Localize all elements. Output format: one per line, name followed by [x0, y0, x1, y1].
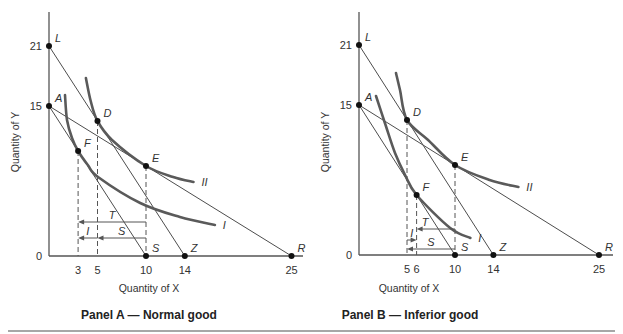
indifference-curve-label: I — [478, 232, 481, 244]
point-d — [404, 117, 410, 123]
point-label: D — [104, 107, 112, 119]
panel-b-origin-label: 0 — [346, 249, 352, 261]
x-tick-label: 14 — [179, 264, 191, 276]
point-label: L — [365, 31, 371, 43]
point-f — [75, 148, 81, 154]
point-label: Z — [190, 242, 199, 254]
point-label: Z — [498, 241, 507, 253]
y-tick-label: 15 — [30, 100, 42, 112]
point-d — [95, 118, 101, 124]
arrowhead-icon — [98, 235, 104, 240]
effect-label: T — [422, 216, 430, 228]
y-tick-label: 21 — [30, 40, 42, 52]
arrowhead-icon — [78, 235, 84, 240]
effect-label: S — [427, 236, 435, 248]
x-tick-label: 5 — [94, 264, 100, 276]
point-r — [596, 252, 602, 258]
point-r — [289, 253, 295, 259]
panel-a-y-axis-title: Quantity of Y — [9, 112, 21, 173]
point-label: L — [55, 32, 61, 44]
x-tick-label: 3 — [75, 264, 81, 276]
point-label: R — [605, 241, 613, 253]
point-label: F — [423, 181, 431, 193]
point-l — [356, 42, 362, 48]
arrowhead-icon — [78, 219, 84, 224]
effect-label: T — [109, 209, 117, 221]
point-s — [143, 253, 149, 259]
indifference-curve-ii — [396, 73, 518, 187]
panel-b-x-axis-title: Quantity of X — [379, 282, 440, 294]
y-tick-label: 15 — [340, 99, 352, 111]
budget-line-lz — [49, 46, 185, 256]
point-label: E — [152, 152, 160, 164]
point-a — [356, 102, 362, 108]
figure: 351014251521IIITSILADEFSZR Quantity of Y… — [0, 0, 623, 334]
point-f — [414, 192, 420, 198]
point-label: F — [84, 137, 92, 149]
x-tick-label: 14 — [487, 263, 499, 275]
panel-b-caption: Panel B — Inferior good — [342, 308, 479, 322]
x-tick-label: 10 — [140, 264, 152, 276]
indifference-curve-label: II — [526, 181, 532, 193]
panel-b-y-axis-title: Quantity of Y — [319, 112, 331, 173]
point-label: D — [413, 106, 421, 118]
x-tick-label: 6 — [414, 263, 420, 275]
x-tick-label: 25 — [285, 264, 297, 276]
indifference-curve-i — [65, 95, 215, 225]
effect-label: I — [410, 227, 413, 239]
panel-b: 561014251521IIITISLADEFSZR Quantity of Y… — [319, 12, 613, 322]
effect-label: S — [118, 225, 126, 237]
point-label: A — [364, 91, 372, 103]
y-tick-label: 21 — [340, 39, 352, 51]
panel-a: 351014251521IIITSILADEFSZR Quantity of Y… — [9, 12, 306, 322]
plot-b: 561014251521IIITISLADEFSZR — [340, 12, 613, 275]
indifference-curve-label: I — [223, 219, 226, 231]
point-z — [182, 253, 188, 259]
point-z — [490, 252, 496, 258]
point-l — [46, 43, 52, 49]
x-tick-label: 25 — [593, 263, 605, 275]
panel-a-origin-label: 0 — [36, 250, 42, 262]
panel-a-caption: Panel A — Normal good — [81, 308, 217, 322]
point-label: E — [461, 151, 469, 163]
point-s — [452, 252, 458, 258]
panel-a-x-axis-title: Quantity of X — [119, 282, 180, 294]
x-tick-label: 5 — [404, 263, 410, 275]
effect-label: I — [86, 225, 89, 237]
point-a — [46, 103, 52, 109]
point-label: S — [461, 241, 469, 253]
point-label: R — [298, 242, 306, 254]
plot-a: 351014251521IIITSILADEFSZR — [30, 12, 306, 276]
arrowhead-icon — [407, 246, 413, 251]
point-e — [452, 162, 458, 168]
point-label: A — [54, 92, 62, 104]
indifference-curve-label: II — [202, 176, 208, 188]
indifference-curve-ii — [86, 78, 194, 182]
x-tick-label: 10 — [449, 263, 461, 275]
point-e — [143, 163, 149, 169]
point-label: S — [152, 242, 160, 254]
